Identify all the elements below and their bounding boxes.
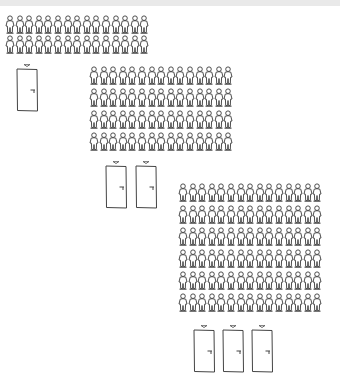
person-icon <box>216 271 226 290</box>
person-icon <box>255 183 265 202</box>
person-icon <box>236 227 246 246</box>
person-icon <box>91 35 101 54</box>
person-icon <box>245 227 255 246</box>
person-icon <box>166 132 176 151</box>
person-icon <box>82 15 92 34</box>
person-icon <box>147 110 157 129</box>
crowd-row <box>5 35 149 55</box>
person-icon <box>284 205 294 224</box>
crowd-row <box>178 249 322 269</box>
person-icon <box>303 227 313 246</box>
person-icon <box>147 88 157 107</box>
person-icon <box>5 35 15 54</box>
person-icon <box>214 66 224 85</box>
person-icon <box>185 110 195 129</box>
person-icon <box>236 293 246 312</box>
person-icon <box>188 249 198 268</box>
person-icon <box>216 183 226 202</box>
person-icon <box>118 66 128 85</box>
person-icon <box>127 66 137 85</box>
person-icon <box>284 249 294 268</box>
person-icon <box>24 15 34 34</box>
person-icon <box>108 88 118 107</box>
door-icon <box>192 324 216 374</box>
person-icon <box>188 271 198 290</box>
person-icon <box>99 66 109 85</box>
person-icon <box>101 35 111 54</box>
person-icon <box>166 110 176 129</box>
person-icon <box>72 35 82 54</box>
person-icon <box>207 227 217 246</box>
person-icon <box>53 35 63 54</box>
person-icon <box>195 110 205 129</box>
person-icon <box>255 271 265 290</box>
person-icon <box>127 110 137 129</box>
person-icon <box>223 88 233 107</box>
person-icon <box>63 15 73 34</box>
person-icon <box>99 132 109 151</box>
person-icon <box>82 35 92 54</box>
person-icon <box>195 132 205 151</box>
person-icon <box>214 132 224 151</box>
person-icon <box>274 271 284 290</box>
person-icon <box>89 110 99 129</box>
person-icon <box>274 293 284 312</box>
person-icon <box>312 293 322 312</box>
person-icon <box>197 183 207 202</box>
person-icon <box>255 205 265 224</box>
person-icon <box>188 227 198 246</box>
person-icon <box>312 205 322 224</box>
person-icon <box>303 271 313 290</box>
person-icon <box>91 15 101 34</box>
person-icon <box>226 271 236 290</box>
person-icon <box>156 110 166 129</box>
person-icon <box>185 66 195 85</box>
person-icon <box>223 132 233 151</box>
person-icon <box>175 66 185 85</box>
person-icon <box>312 271 322 290</box>
person-icon <box>175 88 185 107</box>
person-icon <box>216 227 226 246</box>
person-icon <box>284 183 294 202</box>
door-icon <box>250 324 274 374</box>
person-icon <box>264 183 274 202</box>
person-icon <box>188 205 198 224</box>
person-icon <box>284 271 294 290</box>
person-icon <box>214 88 224 107</box>
person-icon <box>207 183 217 202</box>
crowd-row <box>178 293 322 313</box>
person-icon <box>108 66 118 85</box>
person-icon <box>24 35 34 54</box>
person-icon <box>236 271 246 290</box>
person-icon <box>204 66 214 85</box>
crowd-row <box>178 227 322 247</box>
person-icon <box>53 15 63 34</box>
person-icon <box>127 132 137 151</box>
person-icon <box>236 183 246 202</box>
person-icon <box>89 132 99 151</box>
person-icon <box>15 35 25 54</box>
door-icon <box>134 160 158 210</box>
top-gray-band <box>0 0 340 6</box>
person-icon <box>34 15 44 34</box>
person-icon <box>72 15 82 34</box>
person-icon <box>312 183 322 202</box>
person-icon <box>166 88 176 107</box>
person-icon <box>118 132 128 151</box>
person-icon <box>195 88 205 107</box>
person-icon <box>274 183 284 202</box>
person-icon <box>108 110 118 129</box>
person-icon <box>89 66 99 85</box>
person-icon <box>120 15 130 34</box>
person-icon <box>178 205 188 224</box>
person-icon <box>137 110 147 129</box>
person-icon <box>43 15 53 34</box>
person-icon <box>118 88 128 107</box>
person-icon <box>214 110 224 129</box>
person-icon <box>127 88 137 107</box>
person-icon <box>204 132 214 151</box>
person-icon <box>207 271 217 290</box>
person-icon <box>236 205 246 224</box>
person-icon <box>303 293 313 312</box>
person-icon <box>111 35 121 54</box>
